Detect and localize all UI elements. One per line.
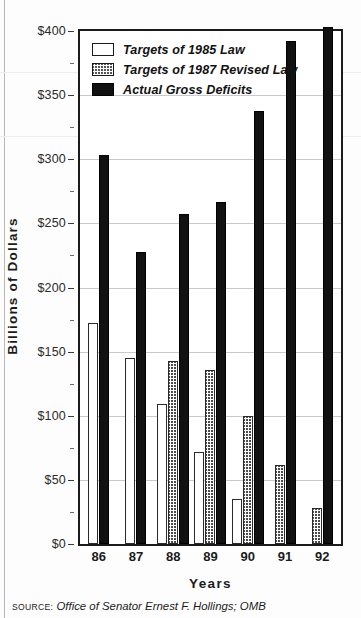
legend-item: Actual Gross Deficits bbox=[92, 80, 302, 99]
bar-actual-gross-deficits bbox=[136, 252, 146, 544]
y-axis-minor-tick-mark bbox=[70, 512, 74, 513]
y-axis-tick-mark bbox=[68, 159, 74, 160]
y-axis-title-label: Billions of Dollars bbox=[5, 217, 20, 355]
y-axis: Billions of Dollars $0$50$100$150$200$25… bbox=[0, 29, 74, 546]
x-axis-tick-label-87: 87 bbox=[129, 549, 143, 564]
y-axis-tick-mark bbox=[68, 352, 74, 353]
bar-group-88 bbox=[155, 31, 192, 544]
bar-targets-1985-law bbox=[157, 404, 167, 544]
y-axis-tick-mark bbox=[68, 223, 74, 224]
bar-targets-1987-revised-law bbox=[205, 370, 215, 544]
x-axis-title: Years bbox=[78, 576, 343, 591]
y-axis-tick-mark bbox=[68, 95, 74, 96]
y-axis-tick-label: $50 bbox=[45, 473, 66, 487]
legend-item: Targets of 1985 Law bbox=[92, 40, 302, 59]
bar-actual-gross-deficits bbox=[286, 41, 296, 544]
y-axis-minor-tick-mark bbox=[70, 384, 74, 385]
y-axis-tick-label: $400 bbox=[37, 24, 66, 38]
bar-group-90 bbox=[229, 31, 266, 544]
y-axis-tick-label: $300 bbox=[37, 152, 66, 166]
y-axis-minor-tick-mark bbox=[70, 63, 74, 64]
y-axis-tick-label: $350 bbox=[37, 88, 66, 102]
bar-actual-gross-deficits bbox=[254, 111, 264, 544]
legend-item-label: Targets of 1985 Law bbox=[123, 43, 245, 57]
y-axis-tick-mark bbox=[68, 480, 74, 481]
bar-group-86 bbox=[80, 31, 117, 544]
y-axis-tick-label: $100 bbox=[37, 409, 66, 423]
chart-legend: Targets of 1985 LawTargets of 1987 Revis… bbox=[92, 40, 302, 100]
y-axis-minor-tick-mark bbox=[70, 255, 74, 256]
y-axis-minor-tick-mark bbox=[70, 191, 74, 192]
bar-targets-1987-revised-law bbox=[312, 508, 322, 544]
y-axis-tick-mark bbox=[68, 416, 74, 417]
legend-swatch-icon bbox=[92, 83, 114, 96]
bar-targets-1987-revised-law bbox=[275, 465, 285, 545]
y-axis-minor-tick-mark bbox=[70, 448, 74, 449]
y-axis-tick-label: $150 bbox=[37, 345, 66, 359]
source-note: Source: Office of Senator Ernest F. Holl… bbox=[12, 600, 266, 612]
x-axis-tick-label-86: 86 bbox=[91, 549, 105, 564]
legend-swatch-icon bbox=[92, 43, 114, 56]
bar-actual-gross-deficits bbox=[216, 202, 226, 544]
legend-item-label: Targets of 1987 Revised Law bbox=[123, 63, 297, 77]
bar-group-92 bbox=[304, 31, 341, 544]
y-axis-tick-label: $0 bbox=[52, 537, 66, 551]
bar-group-89 bbox=[192, 31, 229, 544]
x-axis-tick-label-90: 90 bbox=[241, 549, 255, 564]
x-axis-tick-label-91: 91 bbox=[278, 549, 292, 564]
bar-targets-1985-law bbox=[194, 452, 204, 544]
y-axis-tick-label: $200 bbox=[37, 281, 66, 295]
chart-plot-frame bbox=[78, 29, 343, 546]
bar-targets-1987-revised-law bbox=[168, 361, 178, 544]
source-text: Office of Senator Ernest F. Hollings; OM… bbox=[56, 600, 265, 612]
y-axis-minor-tick-mark bbox=[70, 320, 74, 321]
y-axis-tick-label: $250 bbox=[37, 216, 66, 230]
legend-item-label: Actual Gross Deficits bbox=[123, 83, 252, 97]
legend-item: Targets of 1987 Revised Law bbox=[92, 60, 302, 79]
y-axis-title: Billions of Dollars bbox=[0, 217, 26, 359]
bar-targets-1985-law bbox=[125, 358, 135, 544]
x-axis-tick-label-88: 88 bbox=[166, 549, 180, 564]
bar-actual-gross-deficits bbox=[323, 27, 333, 544]
legend-swatch-icon bbox=[92, 63, 114, 76]
bar-targets-1985-law bbox=[88, 323, 98, 544]
bar-targets-1987-revised-law bbox=[243, 416, 253, 544]
x-axis-tick-label-92: 92 bbox=[315, 549, 329, 564]
y-axis-tick-mark bbox=[68, 544, 74, 545]
bar-targets-1985-law bbox=[232, 499, 242, 544]
chart-plot-area bbox=[80, 31, 341, 544]
bar-actual-gross-deficits bbox=[179, 214, 189, 544]
x-axis-tick-label-89: 89 bbox=[203, 549, 217, 564]
y-axis-tick-mark bbox=[68, 31, 74, 32]
source-kicker: Source: bbox=[12, 602, 53, 612]
y-axis-minor-tick-mark bbox=[70, 127, 74, 128]
bar-group-91 bbox=[266, 31, 303, 544]
bar-actual-gross-deficits bbox=[99, 155, 109, 544]
y-axis-tick-mark bbox=[68, 288, 74, 289]
x-axis: 86878889909192 bbox=[78, 549, 343, 569]
bar-group-87 bbox=[117, 31, 154, 544]
